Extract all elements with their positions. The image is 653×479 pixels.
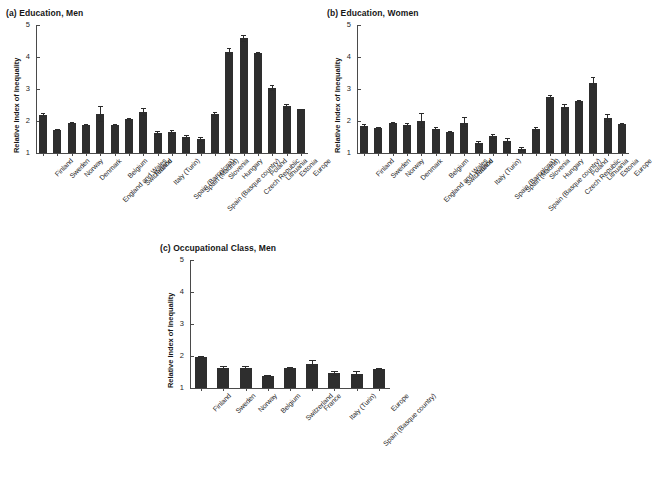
bar	[154, 133, 162, 153]
axes-education-men: 12345	[36, 25, 308, 153]
bar	[283, 106, 291, 153]
y-tick-label: 4	[347, 52, 351, 61]
x-tick-mark	[364, 153, 365, 156]
error-bar	[70, 122, 74, 124]
bar	[561, 107, 569, 153]
y-tick-mark	[36, 57, 40, 58]
error-bar	[605, 114, 609, 122]
x-tick-mark	[301, 153, 302, 156]
y-tick-mark	[190, 324, 194, 325]
error-bar-cap-bottom	[376, 129, 380, 130]
error-bar-cap-top	[98, 106, 102, 107]
bar	[297, 109, 305, 153]
error-bar	[170, 130, 174, 134]
error-bar-cap-bottom	[155, 134, 159, 135]
error-bar-cap-top	[405, 123, 409, 124]
panel-b-title: (b) Education, Women	[327, 8, 637, 18]
error-bar-cap-top	[491, 134, 495, 135]
y-tick-mark	[190, 388, 194, 389]
x-axis-tick-label: Europe	[389, 392, 410, 413]
x-tick-mark	[86, 153, 87, 156]
x-tick-mark	[72, 153, 73, 156]
x-tick-mark	[229, 153, 230, 156]
error-bar-cap-bottom	[591, 87, 595, 88]
error-bar	[84, 124, 88, 127]
error-bar	[227, 48, 231, 54]
x-tick-mark	[186, 153, 187, 156]
error-bar	[299, 109, 303, 110]
y-tick-label: 5	[347, 20, 351, 29]
y-tick-label: 5	[26, 20, 30, 29]
error-bar-cap-top	[220, 366, 227, 367]
x-tick-mark	[550, 153, 551, 156]
x-tick-mark	[223, 388, 224, 391]
error-bar-cap-bottom	[434, 129, 438, 130]
bar	[373, 369, 385, 388]
x-tick-mark	[43, 153, 44, 156]
bar	[446, 132, 454, 153]
error-bar-cap-bottom	[287, 369, 294, 370]
bar	[125, 119, 133, 153]
error-bar-cap-bottom	[577, 102, 581, 103]
x-axis-tick-label: Sweden	[235, 392, 258, 415]
bar	[306, 364, 318, 388]
y-tick-label: 4	[180, 287, 184, 296]
error-bar-cap-top	[41, 113, 45, 114]
x-tick-mark	[172, 153, 173, 156]
error-bar	[55, 129, 59, 132]
y-tick-label: 2	[180, 351, 184, 360]
error-bar-cap-bottom	[419, 127, 423, 128]
error-bar-cap-top	[198, 137, 202, 138]
bar	[589, 83, 597, 153]
error-bar-cap-bottom	[170, 133, 174, 134]
x-tick-mark	[522, 153, 523, 156]
x-tick-mark	[450, 153, 451, 156]
bar	[284, 368, 296, 388]
error-bar-cap-top	[155, 131, 159, 132]
error-bar-cap-top	[170, 130, 174, 131]
bar	[53, 130, 61, 153]
bar	[240, 368, 252, 388]
error-bar	[113, 124, 117, 126]
error-bar	[287, 367, 294, 370]
error-bar-cap-bottom	[353, 376, 360, 377]
y-tick-mark	[357, 121, 361, 122]
error-bar	[462, 117, 466, 127]
bar	[217, 368, 229, 388]
x-tick-mark	[378, 153, 379, 156]
x-tick-mark	[608, 153, 609, 156]
panel-c-title: (c) Occupational Class, Men	[160, 243, 410, 253]
error-bar	[562, 104, 566, 108]
error-bar-cap-bottom	[605, 121, 609, 122]
error-bar-cap-top	[362, 124, 366, 125]
error-bar	[577, 100, 581, 103]
axes-occupational-class-men: 12345	[190, 260, 390, 388]
error-bar	[376, 127, 380, 130]
error-bar-cap-top	[270, 85, 274, 86]
y-tick-label: 1	[180, 383, 184, 392]
error-bar	[405, 123, 409, 126]
bar	[432, 129, 440, 153]
error-bar	[127, 118, 131, 121]
error-bar-cap-bottom	[534, 131, 538, 132]
x-tick-mark	[158, 153, 159, 156]
x-tick-mark	[115, 153, 116, 156]
bar	[182, 137, 190, 153]
error-bar-cap-bottom	[198, 358, 205, 359]
error-bar	[220, 366, 227, 369]
error-bar	[620, 123, 624, 124]
error-bar-cap-top	[462, 117, 466, 118]
plot-area-education-women: Relative Index of Inequality 12345 Finla…	[327, 23, 637, 223]
error-bar	[491, 134, 495, 138]
error-bar-cap-bottom	[264, 376, 271, 377]
x-axis-tick-label: Italy (Turin)	[493, 157, 523, 187]
y-axis-label-a: Relative Index of Inequality	[12, 153, 24, 162]
error-bar	[505, 138, 509, 144]
x-tick-mark	[421, 153, 422, 156]
x-tick-mark	[272, 153, 273, 156]
error-bar-cap-top	[534, 127, 538, 128]
x-axis-tick-label: Spain (Basque country)	[381, 392, 437, 448]
x-tick-mark	[357, 388, 358, 391]
error-bar	[376, 368, 383, 371]
error-bar	[419, 113, 423, 128]
